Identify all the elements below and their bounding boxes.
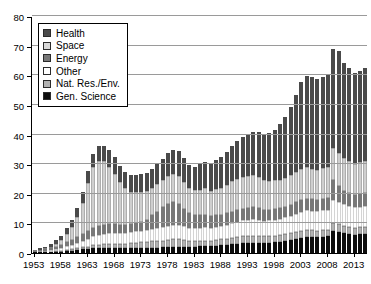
bar-segment-energy	[129, 224, 133, 232]
bar-segment-natres	[331, 223, 335, 231]
y-axis-tick-label: 80	[0, 12, 24, 23]
bar-segment-natres	[326, 230, 330, 237]
bar-segment-space	[331, 148, 335, 181]
bar-segment-space	[251, 175, 255, 207]
bar-segment-health	[134, 175, 138, 192]
bar-segment-health	[321, 77, 325, 168]
y-axis-tick-label: 70	[0, 41, 24, 52]
bar-segment-other	[363, 206, 367, 227]
bar-segment-energy	[123, 225, 127, 233]
bar-1973	[139, 174, 143, 253]
bar-segment-gensci	[353, 235, 357, 253]
bar-segment-energy	[331, 180, 335, 199]
bar-segment-natres	[246, 236, 250, 243]
bar-segment-natres	[161, 241, 165, 248]
bar-segment-natres	[315, 231, 319, 238]
gridline	[32, 134, 367, 135]
bar-segment-energy	[86, 231, 90, 239]
bar-segment-gensci	[241, 243, 245, 253]
bar-segment-gensci	[273, 242, 277, 253]
bar-segment-energy	[171, 202, 175, 225]
x-axis-tick-mark	[34, 254, 35, 257]
bar-segment-space	[337, 153, 341, 186]
bar-2015	[363, 68, 367, 253]
bar-segment-gensci	[193, 247, 197, 253]
bar-segment-health	[337, 51, 341, 153]
bar-1954	[38, 248, 42, 253]
bar-segment-health	[283, 117, 287, 178]
y-axis-tick-mark	[27, 106, 31, 107]
bar-segment-natres	[283, 234, 287, 241]
legend-item-other: Other	[43, 65, 120, 78]
bar-segment-gensci	[262, 243, 266, 253]
bar-segment-space	[171, 174, 175, 202]
bar-segment-energy	[353, 195, 357, 207]
bar-1977	[161, 159, 165, 253]
gridline	[32, 193, 367, 194]
bar-segment-other	[315, 211, 319, 230]
bar-segment-health	[315, 79, 319, 169]
bar-segment-natres	[321, 230, 325, 237]
y-axis-tick-mark	[27, 47, 31, 48]
bar-1991	[235, 141, 239, 253]
bar-segment-energy	[347, 193, 351, 206]
bar-segment-gensci	[363, 234, 367, 253]
bar-segment-gensci	[310, 237, 314, 253]
x-axis-tick-mark	[167, 254, 168, 257]
bar-segment-gensci	[225, 245, 229, 253]
bar-segment-energy	[283, 207, 287, 218]
bar-segment-health	[123, 172, 127, 188]
bar-segment-gensci	[91, 248, 95, 253]
bar-segment-gensci	[75, 250, 79, 253]
bar-1953	[33, 250, 37, 253]
bar-segment-other	[326, 210, 330, 230]
bar-segment-health	[310, 77, 314, 169]
bar-segment-space	[305, 167, 309, 198]
bar-segment-energy	[118, 225, 122, 233]
bar-1956	[49, 244, 53, 253]
bar-segment-health	[155, 164, 159, 184]
legend-item-label: Space	[56, 40, 84, 51]
legend-item-label: Gen. Science	[56, 91, 116, 102]
bar-segment-gensci	[182, 247, 186, 253]
bar-segment-health	[70, 220, 74, 228]
bar-segment-gensci	[187, 247, 191, 253]
bar-1963	[86, 171, 90, 253]
bar-segment-space	[139, 192, 143, 222]
bar-segment-gensci	[315, 237, 319, 253]
bar-segment-gensci	[43, 252, 47, 253]
y-axis-tick-mark	[27, 17, 31, 18]
bar-1955	[43, 247, 47, 253]
bar-segment-space	[235, 179, 239, 210]
bar-segment-natres	[289, 233, 293, 240]
bar-segment-health	[358, 71, 362, 163]
x-axis-tick-mark	[114, 254, 115, 257]
bar-segment-energy	[305, 199, 309, 211]
bar-segment-energy	[214, 215, 218, 227]
bar-2011	[342, 63, 346, 253]
bar-segment-gensci	[171, 247, 175, 253]
bar-segment-natres	[310, 230, 314, 237]
bar-segment-energy	[337, 186, 341, 201]
bar-segment-other	[102, 234, 106, 244]
bar-segment-gensci	[278, 242, 282, 253]
bar-2004	[305, 76, 309, 253]
bar-segment-other	[310, 211, 314, 231]
bar-segment-natres	[177, 239, 181, 246]
bar-segment-health	[193, 167, 197, 191]
bar-1967	[107, 150, 111, 253]
bar-segment-space	[321, 168, 325, 199]
legend-item-health: Health	[43, 27, 120, 40]
bar-1976	[155, 164, 159, 253]
bar-segment-gensci	[139, 248, 143, 253]
bar-segment-health	[267, 133, 271, 181]
legend-swatch-icon	[43, 54, 51, 62]
bar-segment-natres	[182, 240, 186, 247]
bar-segment-health	[225, 152, 229, 185]
bar-segment-gensci	[347, 234, 351, 253]
bar-segment-space	[91, 167, 95, 228]
bar-segment-other	[97, 235, 101, 245]
bar-segment-space	[294, 172, 298, 202]
bar-segment-gensci	[305, 237, 309, 253]
bar-segment-gensci	[203, 246, 207, 253]
